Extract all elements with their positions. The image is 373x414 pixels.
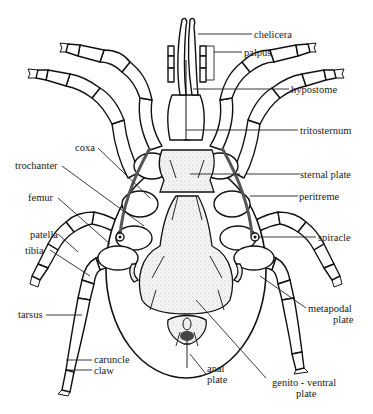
- label-spiracle: spiracle: [318, 232, 351, 243]
- label-claw: claw: [94, 365, 114, 376]
- label-genito-ventral-plate-1: genito - ventral: [272, 377, 336, 388]
- label-metapodal-plate-1: metapodal: [308, 303, 352, 314]
- anal-dark-zone: [180, 331, 194, 341]
- label-metapodal-plate-2: plate: [333, 314, 354, 325]
- mite-anatomy-diagram: chelicera palpus hypostome tritosternum …: [0, 0, 373, 414]
- label-sternal-plate: sternal plate: [300, 169, 351, 180]
- sternal-plate: [159, 150, 214, 192]
- label-genito-ventral-plate-2: plate: [296, 388, 317, 399]
- spiracle-left-dot: [119, 236, 122, 239]
- label-hypostome: hypostome: [291, 84, 337, 95]
- palps: [168, 46, 206, 82]
- label-caruncle: caruncle: [94, 354, 130, 365]
- label-peritreme: peritreme: [299, 191, 340, 202]
- label-coxa: coxa: [75, 142, 95, 153]
- label-chelicera: chelicera: [254, 29, 292, 40]
- label-palpus: palpus: [244, 47, 271, 58]
- label-femur: femur: [28, 192, 54, 203]
- label-tarsus: tarsus: [18, 309, 43, 320]
- label-trochanter: trochanter: [15, 160, 58, 171]
- label-tritosternum: tritosternum: [300, 125, 351, 136]
- label-anal-plate-2: plate: [207, 374, 228, 385]
- label-tibia: tibia: [25, 245, 44, 256]
- label-anal-plate-1: anal: [207, 363, 225, 374]
- spiracle-right-dot: [254, 236, 257, 239]
- label-patella: patella: [30, 229, 58, 240]
